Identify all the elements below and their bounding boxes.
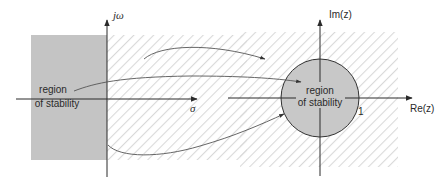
z-plane-region-label-1: region — [306, 85, 334, 96]
s-plane-region-label-2: of stability — [35, 98, 79, 109]
s-plane-region-label-1: region — [39, 84, 67, 95]
z-plane-unit-marker: 1 — [358, 106, 364, 117]
s-plane-sigma-label: σ — [190, 102, 196, 114]
s-plane-jw-label: jω — [111, 9, 124, 21]
z-plane-im-label: Im(z) — [329, 9, 352, 20]
z-plane-region-label-2: of stability — [298, 97, 342, 108]
diagram-svg: jω σ region of stability Im(z) Re(z) 1 r… — [0, 0, 448, 187]
stability-mapping-diagram: jω σ region of stability Im(z) Re(z) 1 r… — [0, 0, 448, 187]
z-plane-re-label: Re(z) — [410, 103, 434, 114]
s-plane-unstable-region — [107, 35, 247, 160]
